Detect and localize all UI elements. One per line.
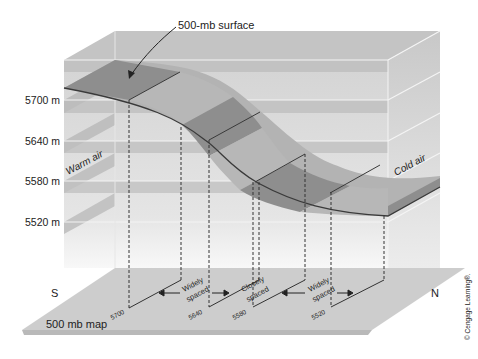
- height-label-5520: 5520 m: [25, 216, 60, 228]
- map-plane-edge: [22, 330, 372, 335]
- copyright-label: © Cengage Learning®.: [464, 273, 472, 340]
- south-label: S: [51, 287, 58, 299]
- height-label-5640: 5640 m: [25, 135, 60, 147]
- north-label: N: [431, 287, 439, 299]
- box-top: [64, 31, 440, 60]
- box-right-side: [388, 31, 440, 268]
- map-label: 500 mb map: [46, 318, 107, 330]
- height-label-5700: 5700 m: [25, 94, 60, 106]
- diagram-500mb-surface: 500-mb surface 5700 m 5640 m 5580 m 5520…: [0, 0, 478, 359]
- callout-label: 500-mb surface: [178, 19, 254, 31]
- height-label-5580: 5580 m: [25, 175, 60, 187]
